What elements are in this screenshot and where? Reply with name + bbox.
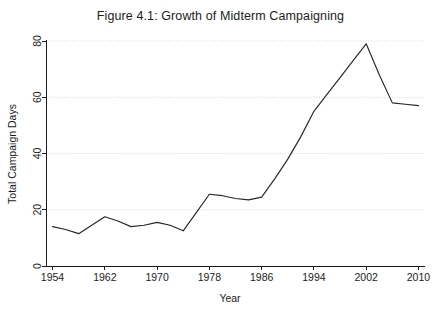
y-tick-label-80: 80: [31, 35, 43, 47]
y-tick-label-20: 20: [31, 204, 43, 216]
y-tick-label-60: 60: [31, 91, 43, 103]
x-axis-title: Year: [219, 292, 241, 304]
axes-group: [46, 40, 425, 266]
x-tick-label-1994: 1994: [302, 271, 326, 283]
x-tick-label-1962: 1962: [93, 271, 117, 283]
x-tick-label-2010: 2010: [407, 271, 431, 283]
line-chart-plot: 19541962197019781986199420022010 0204060…: [0, 0, 441, 315]
y-tick-label-40: 40: [31, 148, 43, 160]
data-series-group: [53, 44, 419, 234]
x-tick-label-1954: 1954: [41, 271, 65, 283]
x-tick-label-1986: 1986: [250, 271, 274, 283]
y-tick-label-0: 0: [31, 263, 43, 269]
series-line-0: [53, 44, 419, 234]
y-axis-title: Total Campaign Days: [6, 104, 18, 204]
y-axis-ticks: 020406080: [31, 35, 46, 269]
x-tick-label-2002: 2002: [355, 271, 379, 283]
gridlines-group: [46, 41, 425, 266]
figure-container: Figure 4.1: Growth of Midterm Campaignin…: [0, 0, 441, 315]
x-tick-label-1970: 1970: [145, 271, 169, 283]
x-axis-ticks: 19541962197019781986199420022010: [41, 266, 430, 283]
x-tick-label-1978: 1978: [198, 271, 222, 283]
